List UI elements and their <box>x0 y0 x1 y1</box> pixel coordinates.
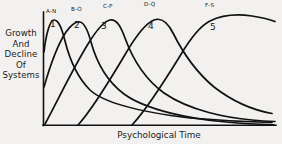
pair-label-b-o: B-O <box>71 6 82 12</box>
y-axis-label-line-1: Growth <box>0 28 42 39</box>
y-axis-label-line-5: Systems <box>0 70 42 81</box>
curve-number-4: 4 <box>148 21 154 31</box>
pair-label-a-n: A-N <box>46 8 56 14</box>
pair-label-c-p: C-P <box>103 3 113 9</box>
y-axis-label-line-2: And <box>0 39 42 50</box>
curve-number-5: 5 <box>210 22 216 32</box>
curve-number-1: 1 <box>50 19 56 29</box>
y-axis-label-line-3: Decline <box>0 49 42 60</box>
pair-label-f-s: F-S <box>205 2 214 8</box>
curve-number-2: 2 <box>74 20 80 30</box>
curve-4-d-q <box>78 19 272 125</box>
curve-number-3: 3 <box>101 21 107 31</box>
pair-label-d-q: D-Q <box>144 1 155 7</box>
growth-decline-of-systems-figure: Growth And Decline Of Systems Psychologi… <box>0 0 282 144</box>
y-axis-label-line-4: Of <box>0 60 42 71</box>
y-axis-label: Growth And Decline Of Systems <box>0 28 42 81</box>
curve-2-b-o <box>44 22 274 125</box>
curve-3-c-p <box>45 20 275 124</box>
x-axis-label: Psychological Time <box>43 130 275 140</box>
curve-1-a-n <box>44 20 272 123</box>
chart-canvas <box>0 0 282 144</box>
